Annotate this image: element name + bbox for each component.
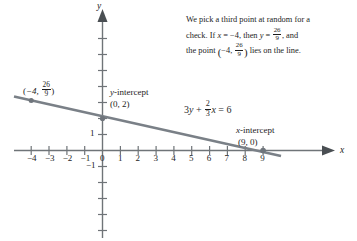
x-intercept-callout: x-intercept: [236, 126, 274, 136]
x-intercept-title-rest: -intercept: [240, 125, 274, 135]
equation-rhs: 6: [227, 104, 232, 115]
y-tick-label--1: −1: [86, 161, 96, 171]
x-tick-label-5: 5: [189, 154, 194, 164]
equation-var-y: y: [189, 104, 193, 115]
prose-line-2-e: , and: [282, 31, 298, 40]
third-point-x-value: −4,: [26, 86, 41, 96]
x-tick-label-9: 9: [260, 154, 265, 164]
third-point-fraction: 269: [42, 81, 51, 97]
x-tick-label-6: 6: [207, 154, 212, 164]
prose-line-2-equals-2: =: [263, 31, 272, 40]
prose-line-3-c: lies on the line.: [248, 47, 301, 56]
prose-line-3-a: the point: [186, 47, 218, 56]
y-intercept-point-label: (0, 2): [110, 100, 130, 110]
x-tick-label-3: 3: [153, 154, 158, 164]
third-point-label: (−4, 269): [23, 81, 54, 97]
third-point-denominator: 9: [42, 90, 51, 98]
prose-line-2-c: −4, then: [230, 31, 260, 40]
x-tick-label--4: −4: [27, 154, 37, 164]
x-axis-label: x: [340, 145, 344, 155]
equation-plus: +: [196, 104, 202, 115]
y-intercept-marker: [100, 116, 105, 121]
x-tick-label--2: −2: [63, 154, 73, 164]
prose-line-3: the point (−4, 269) lies on the line.: [186, 42, 354, 61]
x-tick-label-0: 0: [100, 154, 105, 164]
x-tick-label-7: 7: [225, 154, 230, 164]
x-tick-label-1: 1: [118, 154, 123, 164]
y-intercept-callout: y-intercept: [110, 88, 148, 98]
equation-equals: =: [218, 104, 224, 115]
y-intercept-title-rest: -intercept: [114, 87, 148, 97]
equation-label: 3y + 23x = 6: [184, 100, 232, 118]
x-tick-label-2: 2: [136, 154, 141, 164]
y-axis-label: y: [97, 1, 101, 11]
prose-line-2-fraction: 269: [273, 27, 282, 42]
equation-var-x: x: [211, 104, 215, 115]
prose-line-1-text: We pick a third point at random for a: [186, 15, 310, 24]
x-tick-label-4: 4: [171, 154, 176, 164]
explanatory-text: We pick a third point at random for a ch…: [186, 13, 354, 61]
equation-fraction: 23: [205, 100, 211, 118]
y-tick-label-1: 1: [90, 129, 95, 139]
prose-line-2-a: check. If: [186, 31, 217, 40]
x-tick-label--3: −3: [45, 154, 55, 164]
x-axis-arrowhead: [322, 146, 335, 156]
third-point-close-paren: ): [51, 86, 54, 96]
equation-denominator: 3: [205, 110, 211, 119]
prose-line-3-x-value: −4,: [221, 47, 234, 56]
prose-line-2-denominator: 9: [273, 35, 282, 42]
x-intercept-point-label: (9, 0): [238, 138, 258, 148]
x-tick-label-8: 8: [242, 154, 247, 164]
figure-canvas: −4 −3 −2 −1 0 1 2 3 4 5 6 7 8 9 1 −1 x y…: [0, 0, 357, 241]
prose-line-3-denominator: 9: [235, 51, 244, 58]
prose-line-2-equals: =: [221, 31, 230, 40]
third-point-marker: [29, 98, 34, 103]
prose-line-1: We pick a third point at random for a: [186, 13, 354, 27]
prose-line-3-fraction: 269: [235, 42, 244, 57]
prose-line-2: check. If x = −4, then y = 269, and: [186, 27, 354, 43]
